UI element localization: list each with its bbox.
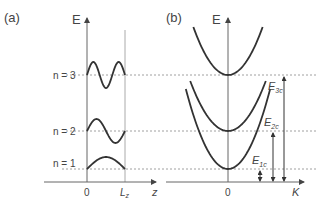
level-label-n2: n = 2 [53, 126, 76, 137]
quantum-well-diagram: (a) E n = 3 n = 2 n = 1 0 Lz z (b) E E3c… [0, 0, 318, 208]
panel-b-x-label: K [292, 186, 300, 198]
panel-b-y-label: E [212, 12, 221, 27]
wavefunction-n1 [87, 157, 125, 169]
label-e3c: E3c [268, 80, 283, 94]
panel-b-label: (b) [166, 10, 182, 25]
panel-a-x-label: z [151, 186, 158, 198]
level-label-n1: n = 1 [53, 158, 76, 169]
label-e1c: E1c [252, 154, 267, 168]
x-tick-0: 0 [84, 187, 90, 198]
panel-a-y-label: E [72, 12, 81, 27]
level-label-n3: n = 3 [53, 70, 76, 81]
x-tick-lz: Lz [120, 187, 130, 199]
panel-b-x-tick-0: 0 [225, 187, 231, 198]
label-e2c: E2c [264, 116, 279, 130]
panel-a-label: (a) [4, 10, 20, 25]
